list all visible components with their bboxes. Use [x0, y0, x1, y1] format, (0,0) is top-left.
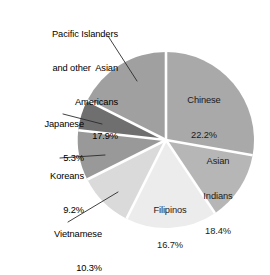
slice-label-line: Japanese — [4, 119, 84, 130]
slice-label-vietnamese: Vietnamese 10.3% — [2, 206, 102, 275]
slice-label-line: Vietnamese — [2, 229, 102, 240]
slice-label-line: Koreans — [4, 171, 84, 182]
slice-label-line: Asian — [190, 156, 246, 168]
slice-label-value: 16.7% — [136, 240, 204, 252]
slice-label-line: Pacific Islanders — [6, 29, 118, 40]
slice-label-line: Chinese — [174, 95, 234, 107]
slice-label-line: and other Asian — [6, 63, 118, 74]
slice-label-line: Filipinos — [136, 205, 204, 217]
slice-label-filipinos: Filipinos 16.7% — [136, 182, 204, 275]
slice-label-value: 10.3% — [2, 263, 102, 274]
